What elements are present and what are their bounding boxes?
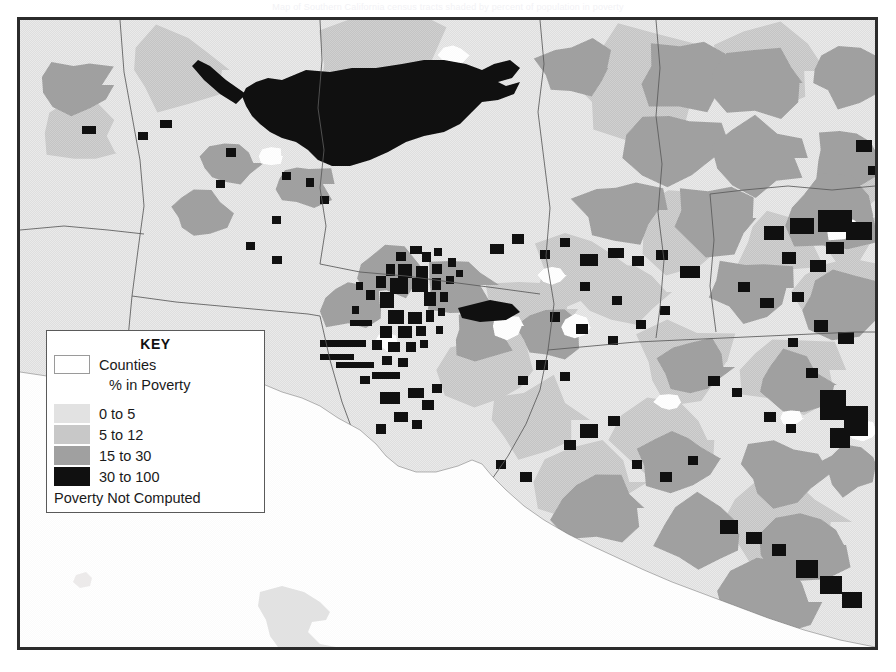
legend-row-class-3: 30 to 100 (47, 466, 264, 487)
legend-class-list: 0 to 5 5 to 12 15 to 30 30 to 100 (47, 403, 264, 487)
legend-row-class-1: 5 to 12 (47, 424, 264, 445)
legend-row-counties: Counties (47, 354, 264, 375)
legend-swatch-5-to-12 (54, 425, 90, 444)
legend-label-15-to-30: 15 to 30 (99, 448, 151, 464)
map-legend-key: KEY Counties % in Poverty 0 to 5 5 to 12… (46, 330, 265, 513)
legend-title: KEY (47, 336, 264, 352)
legend-swatch-counties (54, 355, 90, 374)
legend-row-class-0: 0 to 5 (47, 403, 264, 424)
legend-label-0-to-5: 0 to 5 (99, 406, 135, 422)
legend-swatch-15-to-30 (54, 446, 90, 465)
legend-label-5-to-12: 5 to 12 (99, 427, 143, 443)
scan-caption-strip: Map of Southern California census tracts… (0, 0, 896, 14)
legend-footer-poverty-not-computed: Poverty Not Computed (47, 487, 264, 509)
legend-label-30-to-100: 30 to 100 (99, 469, 159, 485)
legend-subheading-percent-in-poverty: % in Poverty (47, 375, 264, 396)
legend-swatch-0-to-5 (54, 404, 90, 423)
legend-row-class-2: 15 to 30 (47, 445, 264, 466)
legend-label-counties: Counties (99, 357, 156, 373)
legend-swatch-30-to-100 (54, 467, 90, 486)
